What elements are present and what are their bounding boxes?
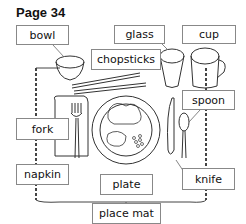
cup-drawing [191,48,225,88]
label-napkin: napkin [16,164,69,185]
label-cup: cup [182,25,236,44]
glass-drawing [160,44,184,88]
label-fork: fork [16,118,69,140]
chopsticks-drawing [72,73,146,94]
label-plate: plate [100,174,153,195]
label-chopsticks: chopsticks [91,49,161,70]
plate-drawing [92,96,160,164]
page-title: Page 34 [16,5,65,20]
fork-drawing [71,103,82,158]
spoon-drawing [179,110,200,158]
label-knife: knife [182,168,235,190]
label-place-mat: place mat [92,203,161,224]
label-bowl: bowl [16,25,69,45]
label-spoon: spoon [182,90,235,110]
bowl-drawing [53,45,84,80]
label-glass: glass [114,25,165,44]
